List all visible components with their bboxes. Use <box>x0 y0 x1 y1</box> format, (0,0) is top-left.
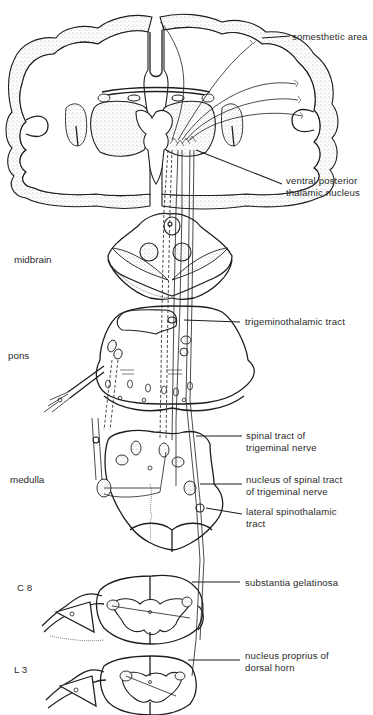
medulla-section <box>92 418 223 552</box>
pons-section <box>44 306 254 430</box>
callout-trigeminothalamic-tract: trigeminothalamic tract <box>245 316 345 328</box>
callout-spinal-tract-of-trigeminal-nerve: spinal tract of trigeminal nerve <box>246 430 317 453</box>
callout-substantia-gelatinosa: substantia gelatinosa <box>245 577 338 589</box>
pathway-diagram <box>0 0 373 715</box>
callout-nucleus-proprius: nucleus proprius of dorsal horn <box>245 650 329 673</box>
callout-lateral-spinothalamic-tract: lateral spinothalamic tract <box>246 506 337 529</box>
region-label-medulla: medulla <box>10 474 44 485</box>
region-label-c8: C 8 <box>17 582 32 593</box>
region-label-pons: pons <box>8 350 29 361</box>
neuroanatomy-figure: midbrain pons medulla C 8 L 3 somestheti… <box>0 0 373 715</box>
region-label-l3: L 3 <box>14 664 27 675</box>
callout-nucleus-of-spinal-tract: nucleus of spinal tract of trigeminal ne… <box>246 474 342 497</box>
region-label-midbrain: midbrain <box>14 254 52 265</box>
callout-ventral-posterior-thalamic-nucleus: ventral posterior thalamic nucleus <box>286 175 360 198</box>
l3-spinal-segment <box>46 656 196 715</box>
callout-somesthetic-area: somesthetic area <box>292 31 367 43</box>
c8-spinal-segment <box>42 575 203 644</box>
